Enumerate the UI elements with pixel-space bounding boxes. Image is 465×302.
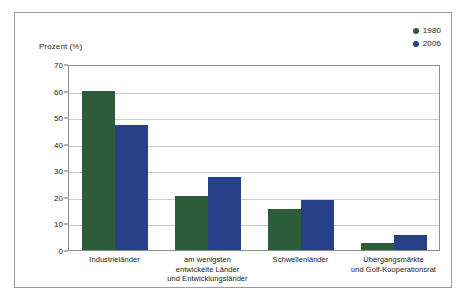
y-axis-tick-label: 60 (54, 87, 63, 96)
legend-label-1980: 1980 (423, 26, 441, 36)
y-axis-tick-label: 30 (54, 167, 63, 176)
legend-item-1980[interactable]: 1980 (413, 25, 441, 36)
plot-wrapper: 010203040506070 (54, 53, 440, 253)
y-axis-tick-label: 10 (54, 220, 63, 229)
legend-swatch-1980-icon (413, 28, 419, 34)
plot-area (68, 65, 440, 251)
bar-group (348, 66, 441, 250)
chart-figure: 1980 2006 Prozent (%) 010203040506070 In… (14, 12, 452, 288)
y-axis-tick-label: 20 (54, 193, 63, 202)
y-axis-tick-labels: 010203040506070 (54, 65, 68, 251)
bar-1980-1[interactable] (175, 196, 208, 250)
bar-group (255, 66, 348, 250)
bar-1980-2[interactable] (268, 209, 301, 250)
bar-2006-2[interactable] (301, 200, 334, 250)
y-axis-tick-label: 50 (54, 114, 63, 123)
legend-item-2006[interactable]: 2006 (413, 38, 441, 49)
x-axis-category-labels: Industrieländeram wenigstenentwickelte L… (54, 255, 440, 295)
bar-2006-1[interactable] (208, 177, 241, 250)
x-axis-category-label-line: und Entwicklungsländer (144, 274, 270, 284)
x-axis-category-label: Übergangsmärkteund Golf-Kooperationsrat (330, 255, 456, 274)
x-axis-category-label-line: und Golf-Kooperationsrat (330, 265, 456, 275)
bar-1980-3[interactable] (361, 243, 394, 250)
x-axis-category-label-line: entwickelte Länder (144, 265, 270, 275)
bar-1980-0[interactable] (82, 91, 115, 250)
chart-legend: 1980 2006 (413, 25, 441, 49)
bar-2006-3[interactable] (394, 235, 427, 250)
x-axis-category-label-line: Übergangsmärkte (330, 255, 456, 265)
bar-group (162, 66, 255, 250)
y-axis-tick-label: 70 (54, 61, 63, 70)
bar-2006-0[interactable] (115, 125, 148, 250)
y-axis-tick-label: 40 (54, 140, 63, 149)
legend-swatch-2006-icon (413, 41, 419, 47)
bar-series-container (69, 66, 439, 250)
bar-group (69, 66, 162, 250)
legend-label-2006: 2006 (423, 39, 441, 49)
y-axis-title: Prozent (%) (39, 42, 82, 51)
